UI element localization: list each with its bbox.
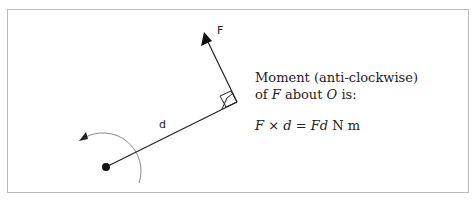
- rotation-arc: [84, 133, 141, 183]
- caption-text: about: [281, 87, 327, 102]
- formula-units: N m: [328, 118, 360, 133]
- right-angle-box: [220, 91, 237, 107]
- caption-text: is:: [337, 87, 356, 102]
- caption-line-2: of F about O is:: [255, 87, 357, 103]
- force-arrowhead-icon: [201, 32, 212, 46]
- caption-point-symbol: O: [327, 87, 338, 102]
- formula-fd: Fd: [311, 118, 328, 133]
- rotation-arrowhead-icon: [79, 132, 88, 141]
- moment-formula: F × d = Fd N m: [255, 118, 360, 134]
- caption-text: of: [255, 87, 272, 102]
- formula-f: F: [255, 118, 264, 133]
- caption-line-1: Moment (anti-clockwise): [255, 70, 418, 86]
- caption-text: Moment (anti-clockwise): [255, 70, 418, 85]
- caption-force-symbol: F: [272, 87, 281, 102]
- force-label: F: [217, 24, 223, 37]
- lever-arm-d: [106, 102, 237, 167]
- moment-diagram: F d: [0, 0, 476, 202]
- formula-equals: =: [292, 118, 311, 133]
- formula-d: d: [283, 118, 291, 133]
- formula-times: ×: [264, 118, 283, 133]
- distance-label: d: [159, 118, 166, 131]
